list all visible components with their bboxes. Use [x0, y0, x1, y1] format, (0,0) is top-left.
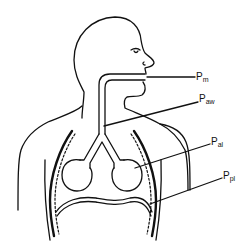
bronchus-right: [105, 134, 124, 160]
alveolus-left: [62, 160, 92, 191]
label-ppl-main: P: [223, 170, 230, 181]
label-paw-main: P: [199, 93, 206, 104]
leader-paw: [104, 102, 198, 126]
alveolus-right: [112, 160, 142, 191]
chest-wall-right-inner: [131, 134, 151, 234]
label-ppl-sub: pl: [230, 175, 235, 182]
chest-wall-right-outer: [134, 131, 156, 236]
respiratory-diagram: [0, 0, 248, 250]
label-pm-sub: m: [203, 76, 209, 83]
label-paw-sub: aw: [206, 98, 215, 105]
bronchus-left: [80, 134, 99, 160]
diaphragm-inner: [57, 202, 151, 216]
label-pal-sub: al: [218, 141, 223, 148]
chin-outline: [124, 82, 188, 190]
bronchi-inner: [90, 142, 114, 168]
label-pal-main: P: [211, 136, 218, 147]
label-pal: Pal: [211, 137, 223, 148]
chest-wall-left-outer: [50, 131, 72, 236]
label-ppl: Ppl: [223, 171, 235, 182]
eye: [131, 49, 140, 53]
label-paw: Paw: [199, 94, 215, 105]
right-shoulder: [160, 124, 190, 190]
head-outline: [74, 17, 154, 118]
label-pm: Pm: [196, 72, 209, 83]
nostril: [143, 62, 145, 65]
label-pm-main: P: [196, 71, 203, 82]
